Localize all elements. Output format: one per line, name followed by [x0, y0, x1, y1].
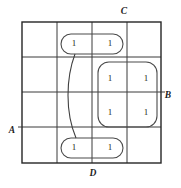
label-a: A	[8, 125, 15, 135]
label-c: C	[121, 6, 128, 16]
cell-r3c1: 1	[72, 142, 77, 152]
cell-r3c2: 1	[108, 142, 113, 152]
cell-r2c3: 1	[144, 107, 149, 117]
label-b: B	[164, 90, 171, 100]
karnaugh-map-canvas: 1 1 1 1 1 1 1 1 C B A D	[0, 0, 181, 188]
cell-r0c1: 1	[72, 38, 77, 48]
grouping-outlines	[61, 34, 157, 158]
cell-values: 1 1 1 1 1 1 1 1	[72, 38, 149, 152]
cell-r2c2: 1	[108, 107, 113, 117]
wrap-connector-curve	[68, 54, 76, 138]
cell-r1c2: 1	[108, 73, 113, 83]
cell-r1c3: 1	[144, 73, 149, 83]
label-d: D	[89, 168, 97, 178]
cell-r0c2: 1	[108, 38, 113, 48]
karnaugh-map-figure: 1 1 1 1 1 1 1 1 C B A D	[0, 0, 181, 188]
